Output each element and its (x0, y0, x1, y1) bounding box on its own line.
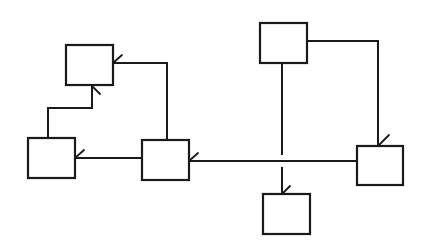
block-top-right (260, 23, 307, 63)
arrow-tick-bottom-top (282, 186, 290, 194)
block-top-left (66, 45, 113, 85)
edge-center-to-top-left (113, 63, 167, 140)
block-right (357, 146, 403, 185)
arrow-tick-left-right (75, 150, 84, 158)
arrow-tick-top-left-bottom (92, 86, 100, 94)
block-center (142, 140, 189, 180)
arrow-tick-top-left-right (113, 55, 122, 63)
edge-left-to-top-left (48, 85, 92, 138)
edge-top-right-to-right (307, 41, 378, 146)
arrow-tick-right-top (378, 135, 389, 146)
diagram-canvas (0, 0, 424, 248)
block-left (28, 138, 75, 178)
block-bottom (263, 194, 310, 234)
block-diagram (0, 0, 424, 248)
arrow-tick-center-right (189, 153, 198, 161)
